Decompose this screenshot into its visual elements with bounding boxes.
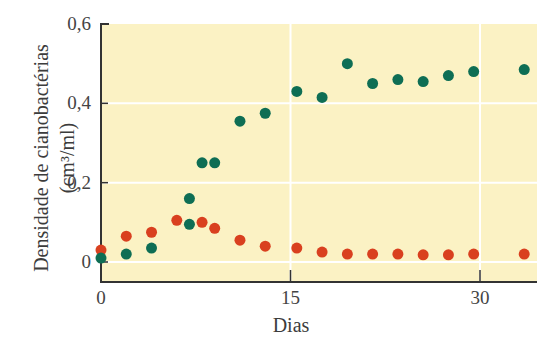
data-point-green [367,78,378,89]
data-point-green [519,64,530,75]
data-point-green [234,116,245,127]
data-point-green [121,249,132,260]
data-point-red [146,227,157,238]
data-point-red [209,223,220,234]
data-point-green [418,76,429,87]
y-axis-title: Densidade de cianobactérias [30,44,52,272]
data-point-green [260,108,271,119]
y-tick-label: 0 [82,251,92,272]
data-point-green [443,70,454,81]
plot-background [101,24,537,282]
data-point-green [209,157,220,168]
data-point-red [367,249,378,260]
data-point-green [146,243,157,254]
data-point-green [197,157,208,168]
data-point-red [291,243,302,254]
x-tick-label: 15 [281,287,300,308]
x-tick-label: 30 [471,287,490,308]
data-point-red [121,231,132,242]
data-point-green [184,219,195,230]
data-point-green [392,74,403,85]
data-point-red [197,217,208,228]
data-point-green [317,92,328,103]
data-point-red [342,249,353,260]
x-axis-title: Dias [273,314,310,336]
data-point-green [184,193,195,204]
y-tick-label: 0,4 [67,92,91,113]
data-point-green [468,66,479,77]
data-point-red [443,249,454,260]
data-point-green [342,58,353,69]
data-point-red [519,249,530,260]
data-point-red [418,249,429,260]
y-tick-label: 0,6 [67,13,91,34]
data-point-green [291,86,302,97]
data-point-red [234,235,245,246]
data-point-green [96,253,107,264]
data-point-red [171,215,182,226]
data-point-red [392,249,403,260]
data-point-red [317,247,328,258]
y-axis-units: (cm³/ml) [56,123,79,193]
scatter-chart: 01530 00,20,40,6 Dias Densidade de ciano… [0,0,550,341]
data-point-red [260,241,271,252]
data-point-red [468,249,479,260]
x-tick-label: 0 [96,287,106,308]
